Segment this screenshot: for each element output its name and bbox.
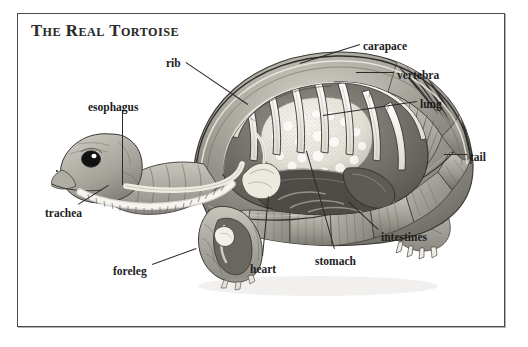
label-lung: lung	[420, 99, 442, 111]
label-tail: tail	[470, 152, 486, 164]
label-heart: heart	[250, 264, 276, 276]
tortoise-anatomy-illustration	[18, 14, 504, 326]
label-foreleg: foreleg	[113, 266, 147, 278]
label-rib: rib	[166, 58, 181, 70]
label-trachea: trachea	[45, 208, 82, 220]
label-vertebra: vertebra	[397, 70, 439, 82]
leader-line-esophagus	[122, 110, 123, 185]
leader-line-vertebra	[356, 72, 394, 73]
page-title: The Real Tortoise	[31, 21, 179, 41]
label-esophagus: esophagus	[88, 102, 139, 114]
label-stomach: stomach	[315, 256, 356, 268]
leader-line-tail	[444, 154, 467, 155]
illustration-page: ribcarapacevertebralungtailintestinessto…	[0, 0, 528, 347]
label-intestines: intestines	[381, 232, 427, 244]
label-carapace: carapace	[363, 41, 407, 53]
